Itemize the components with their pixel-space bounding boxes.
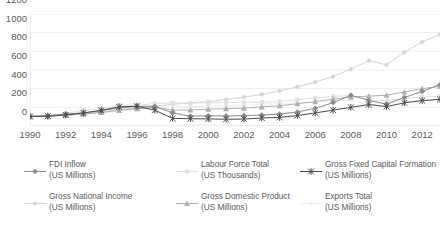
- y-tick-label: 600: [11, 51, 27, 61]
- legend-item-exports-total[interactable]: Exports Total(US Millions): [300, 192, 444, 224]
- x-tick-label: 2004: [269, 130, 290, 140]
- legend-label: Exports Total: [325, 192, 372, 203]
- legend-unit: (US Millions): [49, 171, 95, 182]
- legend-label: Gross Fixed Capital Formation: [325, 160, 436, 171]
- series-line: [30, 35, 440, 117]
- legend-marker-icon: [176, 162, 198, 171]
- x-tick-label: 2008: [340, 130, 361, 140]
- data-point: [331, 74, 335, 78]
- legend-item-gross-domestic-product[interactable]: Gross Domestic Product(US Millions): [176, 192, 300, 224]
- y-tick-label: 0: [22, 107, 27, 117]
- plot-area: [30, 14, 440, 126]
- legend-marker-icon: [176, 194, 198, 203]
- line-chart: 120010008006004002000 199019921994199619…: [0, 0, 444, 230]
- y-tick-label: 200: [11, 88, 27, 98]
- legend-unit: (US Millions): [49, 203, 132, 214]
- x-tick-label: 2010: [376, 130, 397, 140]
- data-point: [313, 80, 317, 84]
- series-layer: [30, 14, 440, 126]
- x-tick-label: 2006: [305, 130, 326, 140]
- legend-item-gross-national-income[interactable]: Gross National Income(US Millions): [24, 192, 176, 224]
- x-tick-label: 1996: [126, 130, 147, 140]
- data-point: [32, 169, 38, 175]
- data-point: [242, 100, 246, 104]
- legend-marker-icon: [24, 162, 46, 171]
- y-tick-label: 800: [11, 32, 27, 42]
- legend-item-labour-force-total[interactable]: Labour Force Total(US Thousands): [176, 160, 300, 192]
- data-point: [171, 101, 175, 105]
- data-point: [367, 59, 371, 63]
- legend-unit: (US Millions): [325, 171, 436, 182]
- legend-item-fdi-inflow[interactable]: FDI Inflow(US Millions): [24, 160, 176, 192]
- data-point: [260, 92, 264, 96]
- data-point: [185, 169, 189, 173]
- y-tick-label: 1200: [6, 0, 27, 5]
- data-point: [242, 95, 246, 99]
- y-tick-label: 1000: [6, 14, 27, 24]
- legend-marker-icon: [300, 194, 322, 203]
- x-tick-label: 2002: [233, 130, 254, 140]
- x-tick-label: 2000: [198, 130, 219, 140]
- data-point: [349, 67, 353, 71]
- legend-label: Labour Force Total: [201, 160, 269, 171]
- series-labour-force-total: [30, 94, 440, 119]
- legend-label: Gross Domestic Product: [201, 192, 290, 203]
- legend-unit: (US Millions): [201, 203, 290, 214]
- data-point: [260, 100, 264, 104]
- data-point: [277, 89, 281, 93]
- data-point: [384, 63, 388, 67]
- legend-marker-icon: [24, 194, 46, 203]
- x-tick-label: 1994: [91, 130, 112, 140]
- data-point: [420, 40, 424, 44]
- legend-unit: (US Thousands): [201, 171, 269, 182]
- data-point: [224, 100, 228, 104]
- data-point: [402, 50, 406, 54]
- data-point: [438, 32, 440, 36]
- legend-label: Gross National Income: [49, 192, 132, 203]
- legend-unit: (US Millions): [325, 203, 372, 214]
- data-point: [295, 85, 299, 89]
- x-tick-label: 1992: [55, 130, 76, 140]
- y-axis: 120010008006004002000: [0, 0, 27, 126]
- x-tick-label: 2012: [412, 130, 433, 140]
- legend-label: FDI Inflow: [49, 160, 95, 171]
- data-point: [206, 101, 210, 105]
- legend-marker-icon: [300, 162, 322, 171]
- x-tick-label: 1990: [19, 130, 40, 140]
- chart-legend: FDI Inflow(US Millions)Labour Force Tota…: [24, 160, 444, 224]
- x-axis: 1990199219941996199820002002200420062008…: [30, 130, 440, 144]
- data-point: [33, 201, 37, 205]
- legend-item-gross-fixed-capital-formation[interactable]: Gross Fixed Capital Formation(US Million…: [300, 160, 444, 192]
- y-tick-label: 400: [11, 70, 27, 80]
- x-tick-label: 1998: [162, 130, 183, 140]
- data-point: [188, 101, 192, 105]
- data-point: [309, 201, 313, 205]
